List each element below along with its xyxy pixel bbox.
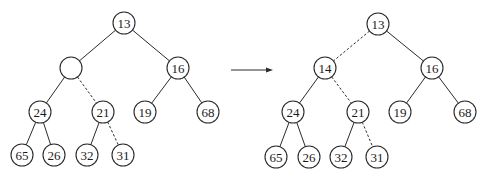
node-label: 21 (352, 105, 365, 120)
node-label: 16 (426, 61, 440, 76)
before-edge-solid (43, 122, 50, 144)
before-node-21: 21 (92, 101, 114, 123)
before-edge-solid (132, 30, 169, 61)
after-edge-solid (345, 122, 354, 146)
before-node-68: 68 (197, 101, 219, 123)
before-node-26: 26 (43, 144, 65, 166)
node-label: 24 (34, 105, 48, 120)
before-edge-solid (184, 77, 202, 103)
after-node-24: 24 (282, 101, 304, 123)
node-label: 68 (202, 105, 215, 120)
after-edge-dashed (333, 31, 369, 61)
node-label: 31 (371, 150, 384, 165)
nodes-layer: 1316242119686526323113141624211968652632… (11, 12, 476, 168)
before-node-empty (60, 57, 82, 79)
before-node-24: 24 (29, 101, 51, 123)
before-node-31: 31 (112, 144, 134, 166)
node-label: 32 (335, 150, 348, 165)
node-label: 65 (16, 148, 29, 163)
after-node-31: 31 (366, 146, 388, 168)
node-label: 14 (319, 61, 333, 76)
after-edge-solid (280, 122, 289, 146)
node-label: 19 (394, 105, 407, 120)
after-node-16: 16 (421, 57, 443, 79)
after-node-65: 65 (265, 146, 287, 168)
heap-diagram-canvas: 1316242119686526323113141624211968652632… (0, 0, 484, 180)
after-node-13: 13 (367, 13, 389, 35)
after-edge-solid (406, 77, 425, 103)
after-node-32: 32 (330, 146, 352, 168)
before-node-65: 65 (11, 144, 33, 166)
transition-arrow (231, 68, 273, 73)
after-node-68: 68 (454, 101, 476, 123)
node-label: 68 (459, 105, 472, 120)
before-node-32: 32 (76, 144, 98, 166)
node-label: 31 (117, 148, 130, 163)
node-label: 16 (172, 61, 186, 76)
edges-layer (26, 30, 458, 147)
before-node-16: 16 (167, 57, 189, 79)
before-edge-solid (26, 122, 36, 145)
node-label: 24 (287, 105, 301, 120)
node-label: 13 (372, 17, 385, 32)
before-edge-dashed (77, 77, 96, 103)
node-label: 21 (97, 105, 110, 120)
node-label: 26 (303, 150, 317, 165)
before-edge-solid (46, 77, 64, 103)
after-edge-solid (439, 77, 459, 103)
node-label: 26 (48, 148, 62, 163)
node-label: 32 (81, 148, 94, 163)
before-edge-dashed (108, 122, 119, 145)
before-node-13: 13 (113, 12, 135, 34)
node-circle (60, 57, 82, 79)
before-edge-solid (91, 122, 99, 144)
after-node-26: 26 (298, 146, 320, 168)
before-node-19: 19 (134, 101, 156, 123)
after-node-14: 14 (314, 57, 336, 79)
node-label: 19 (139, 105, 152, 120)
after-edge-dashed (332, 77, 352, 103)
after-edge-dashed (362, 122, 372, 147)
before-edge-solid (152, 77, 172, 103)
before-edge-solid (79, 30, 115, 61)
after-node-19: 19 (389, 101, 411, 123)
after-edge-solid (299, 77, 318, 103)
after-edge-solid (387, 31, 424, 61)
after-node-21: 21 (347, 101, 369, 123)
node-label: 13 (118, 16, 131, 31)
node-label: 65 (270, 150, 283, 165)
arrow-head-icon (266, 68, 273, 73)
after-edge-solid (297, 122, 306, 146)
